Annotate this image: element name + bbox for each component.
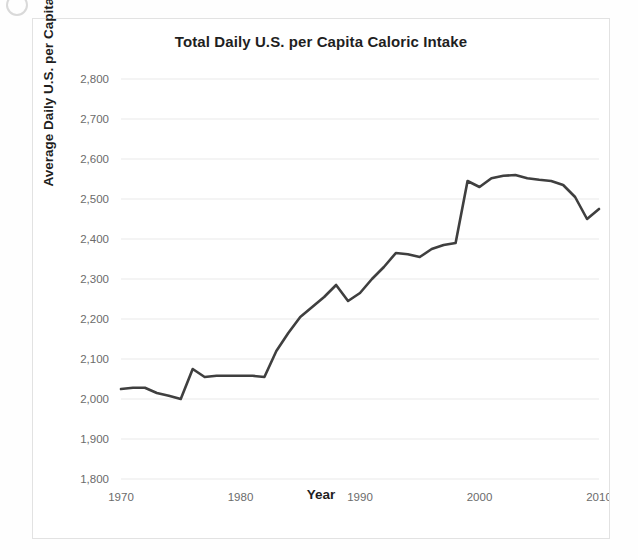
x-axis-title: Year — [33, 487, 609, 502]
y-tick-label: 2,000 — [80, 393, 109, 405]
data-series-line — [121, 175, 599, 399]
line-chart-plot: 1,8001,9002,0002,1002,2002,3002,4002,500… — [33, 19, 609, 538]
y-tick-label: 2,700 — [80, 113, 109, 125]
y-tick-label: 1,900 — [80, 433, 109, 445]
y-tick-label: 2,500 — [80, 193, 109, 205]
y-tick-label: 2,400 — [80, 233, 109, 245]
y-tick-label: 2,200 — [80, 313, 109, 325]
y-tick-label: 2,100 — [80, 353, 109, 365]
y-tick-label: 2,800 — [80, 73, 109, 85]
scan-artifact — [6, 0, 28, 16]
y-tick-label: 1,800 — [80, 473, 109, 485]
y-tick-label: 2,300 — [80, 273, 109, 285]
y-tick-label: 2,600 — [80, 153, 109, 165]
chart-container: Total Daily U.S. per Capita Caloric Inta… — [32, 18, 610, 539]
page-canvas: Total Daily U.S. per Capita Caloric Inta… — [0, 0, 638, 560]
